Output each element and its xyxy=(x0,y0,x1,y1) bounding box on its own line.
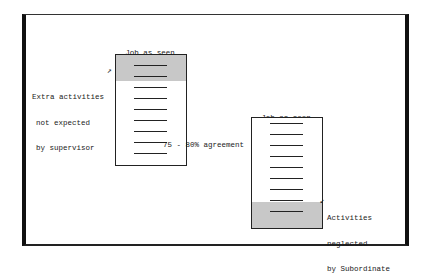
activity-line xyxy=(270,189,303,190)
activity-line xyxy=(134,153,167,154)
subordinate-job-box xyxy=(115,54,187,166)
neglected-line3: by Subordinate xyxy=(327,265,390,274)
extra-line3: by supervisor xyxy=(32,144,104,153)
activity-line xyxy=(270,178,303,179)
activity-line xyxy=(134,87,167,88)
activity-line xyxy=(270,145,303,146)
neglected-line2: neglected xyxy=(327,240,390,249)
activity-line xyxy=(270,156,303,157)
extra-line2: not expected xyxy=(32,119,104,128)
activity-line xyxy=(134,98,167,99)
arrow-icon: ↗ xyxy=(107,67,112,75)
checkmark-arrow-icon: ↙ xyxy=(320,197,325,205)
supervisor-job-box xyxy=(251,117,323,229)
agreement-text: - 80% agreement xyxy=(172,141,244,149)
activity-line xyxy=(270,200,303,201)
extra-line1: Extra activities xyxy=(32,93,104,102)
agreement-value: 75 xyxy=(163,141,172,149)
extra-activities-label: Extra activities not expected by supervi… xyxy=(32,76,104,161)
neglected-activities-label: Activities neglected by Subordinate xyxy=(327,197,390,277)
activity-line xyxy=(270,211,303,212)
activity-line xyxy=(134,65,167,66)
activity-line xyxy=(270,123,303,124)
activity-line xyxy=(134,76,167,77)
activity-line xyxy=(270,167,303,168)
neglected-activities-shading xyxy=(252,202,322,228)
extra-activities-shading xyxy=(116,55,186,81)
activity-line xyxy=(134,120,167,121)
activity-line xyxy=(270,134,303,135)
activity-line xyxy=(134,109,167,110)
agreement-label: 75 - 80% agreement xyxy=(154,132,244,149)
neglected-line1: Activities xyxy=(327,214,390,223)
